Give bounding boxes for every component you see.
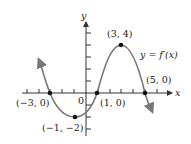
curve-label: y = f′(x)	[139, 49, 178, 60]
derivative-curve	[40, 45, 151, 117]
label-1-0: (1, 0)	[100, 97, 126, 108]
point-neg1-neg2	[73, 115, 78, 120]
label-5-0: (5, 0)	[146, 74, 172, 85]
origin-label: 0	[78, 95, 84, 106]
point-neg3-0	[48, 91, 53, 96]
y-axis-label: y	[80, 10, 87, 21]
label-3-4: (3, 4)	[107, 28, 133, 39]
x-axis-ticks	[27, 89, 157, 93]
graph-canvas: y x 0 (3, 4) y = f′(x) (5, 0) (−3, 0) (1…	[0, 0, 191, 144]
x-axis-label: x	[175, 87, 181, 98]
label-neg3-0: (−3, 0)	[16, 97, 50, 108]
point-3-4	[119, 43, 124, 48]
label-neg1-neg2: (−1, −2)	[42, 122, 83, 133]
point-1-0	[95, 91, 100, 96]
y-axis-ticks	[86, 33, 91, 129]
point-5-0	[143, 91, 148, 96]
